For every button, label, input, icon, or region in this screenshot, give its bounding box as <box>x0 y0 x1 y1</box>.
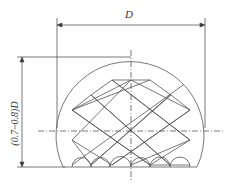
diameter-label: D <box>125 8 133 20</box>
height-label: (0.7~0.8)D <box>9 94 20 154</box>
tube-layout-drawing <box>0 0 230 196</box>
